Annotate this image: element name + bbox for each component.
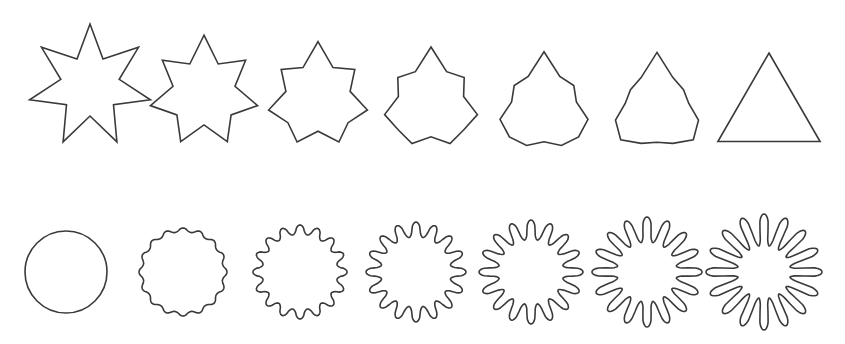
sixteen-point-wavy-star-shape-2 [253, 225, 347, 319]
seven-point-star-shape-5 [616, 52, 699, 143]
seven-point-star-shape-1 [150, 35, 257, 142]
seven-point-star-shape-2 [269, 42, 368, 142]
top-row-star-to-triangle [30, 24, 821, 146]
circle-shape [25, 231, 107, 313]
sixteen-point-wavy-star-shape-4 [479, 220, 583, 324]
sixteen-point-wavy-star-shape-5 [592, 217, 702, 327]
sixteen-point-wavy-star-shape-1 [139, 228, 227, 316]
triangle-shape [718, 53, 820, 142]
seven-point-star-shape-3 [385, 47, 478, 144]
sixteen-point-wavy-star-shape-3 [366, 222, 466, 322]
shape-morph-figure [0, 0, 845, 344]
seven-point-star-shape-0 [30, 24, 151, 142]
seven-point-star-shape-4 [500, 52, 588, 146]
sixteen-point-wavy-star-shape-6 [706, 214, 822, 330]
bottom-row-circle-to-star [25, 214, 822, 330]
